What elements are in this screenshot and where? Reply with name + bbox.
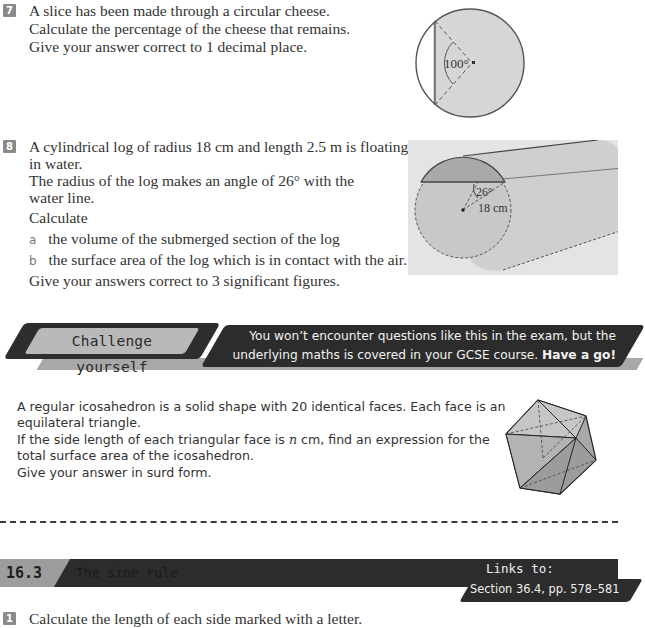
question-text-line: A slice has been made through a circular…	[29, 2, 330, 20]
question-number-badge: 7	[3, 4, 16, 17]
circle-segment-diagram-icon: 100°	[400, 0, 530, 128]
variable-n: n	[289, 432, 297, 447]
question-text-line: in water.	[29, 155, 82, 173]
challenge-text-line: If the side length of each triangular fa…	[17, 432, 490, 448]
question-text-line: Calculate the percentage of the cheese t…	[29, 20, 350, 38]
part-label: b	[29, 254, 37, 268]
icosahedron-diagram-icon	[498, 398, 598, 498]
banner-text: underlying maths is covered in your GCSE…	[233, 348, 542, 362]
part-a: a the volume of the submerged section of…	[29, 230, 340, 250]
question-text-line: The radius of the log makes an angle of …	[29, 172, 354, 190]
part-label: a	[29, 233, 36, 247]
svg-text:26°: 26°	[476, 185, 493, 199]
challenge-label: Challenge yourself	[32, 328, 192, 354]
challenge-banner-text: You won’t encounter questions like this …	[218, 327, 616, 365]
challenge-text-line: equilateral triangle.	[17, 415, 141, 431]
challenge-text-line: A regular icosahedron is a solid shape w…	[17, 399, 506, 415]
section-number: 16.3	[6, 559, 42, 587]
svg-text:18 cm: 18 cm	[478, 201, 508, 215]
links-reference: Section 36.4, pp. 578–581	[470, 582, 619, 596]
floating-log-diagram-icon: 26° 18 cm	[408, 140, 618, 275]
text: cm, find an expression for the	[297, 432, 490, 447]
part-text: the surface area of the log which is in …	[49, 251, 408, 268]
have-a-go-text: Have a go!	[542, 348, 616, 362]
section-divider	[0, 521, 618, 523]
question-number-badge: 1	[3, 612, 16, 625]
question-number-badge: 8	[3, 140, 16, 153]
question-text-line: Give your answer correct to 1 decimal pl…	[29, 38, 307, 56]
question-1-text: Calculate the length of each side marked…	[29, 610, 362, 628]
question-text-line: A cylindrical log of radius 18 cm and le…	[29, 138, 408, 156]
banner-line: You won’t encounter questions like this …	[218, 327, 616, 346]
part-b: b the surface area of the log which is i…	[29, 251, 407, 271]
calculate-label: Calculate	[29, 209, 88, 227]
challenge-text-line: Give your answer in surd form.	[17, 465, 212, 481]
text: If the side length of each triangular fa…	[17, 432, 289, 447]
svg-text:100°: 100°	[444, 56, 469, 71]
links-label: Links to:	[486, 561, 554, 576]
question-text-line: water line.	[29, 189, 94, 207]
question-footer: Give your answers correct to 3 significa…	[29, 272, 340, 290]
challenge-text-line: total surface area of the icosahedron.	[17, 448, 254, 464]
section-title: The sine rule	[76, 559, 178, 587]
part-text: the volume of the submerged section of t…	[48, 230, 340, 247]
banner-line: underlying maths is covered in your GCSE…	[218, 346, 616, 365]
